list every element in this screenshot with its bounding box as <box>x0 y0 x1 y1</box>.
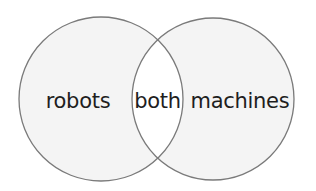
label-robots: robots <box>46 89 111 113</box>
venn-diagram-svg: robots both machines <box>0 0 316 191</box>
label-both: both <box>134 89 181 113</box>
venn-diagram: robots both machines <box>0 0 316 191</box>
label-machines: machines <box>191 89 290 113</box>
